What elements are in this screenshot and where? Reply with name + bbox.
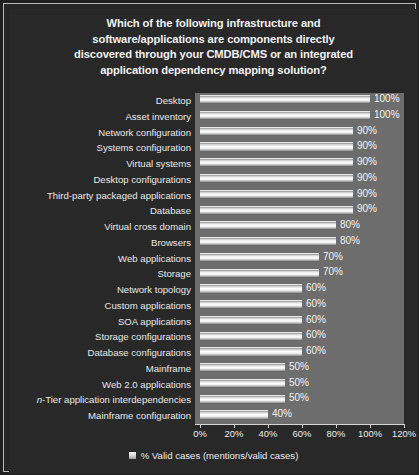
bar (200, 206, 353, 215)
bar (200, 332, 302, 341)
bar-value-label: 70% (323, 250, 343, 264)
bar-row: 90% (195, 140, 404, 156)
bar (200, 363, 285, 372)
bar-value-label: 40% (272, 407, 292, 421)
bar (200, 284, 302, 293)
bar-value-label: 70% (323, 265, 343, 279)
category-label: SOA applications (5, 314, 195, 330)
bar-row: 40% (195, 408, 404, 424)
bar-row: 90% (195, 188, 404, 204)
bar (200, 300, 302, 309)
chart-legend: % Valid cases (mentions/valid cases) (9, 450, 418, 461)
x-axis-tick-label: 40% (259, 428, 278, 439)
x-axis-tick-label: 60% (293, 428, 312, 439)
bar-row: 50% (195, 361, 404, 377)
category-label: Custom applications (5, 298, 195, 314)
bar-value-label: 100% (374, 108, 400, 122)
bar (200, 111, 370, 120)
category-label: Asset inventory (5, 109, 195, 125)
bar-row: 100% (195, 93, 404, 109)
bar-row: 60% (195, 298, 404, 314)
legend-label: % Valid cases (mentions/valid cases) (141, 450, 299, 461)
category-label: Third-party packaged applications (5, 188, 195, 204)
bar-value-label: 90% (357, 171, 377, 185)
category-label: Browsers (5, 235, 195, 251)
chart-title: Which of the following infrastructure an… (35, 16, 392, 78)
bar (200, 237, 336, 246)
x-axis-tick-label: 100% (358, 428, 382, 439)
x-axis-tick-label: 20% (225, 428, 244, 439)
bar-row: 60% (195, 282, 404, 298)
bar-row: 50% (195, 377, 404, 393)
bar-value-label: 90% (357, 202, 377, 216)
x-axis-tick-label: 120% (392, 428, 416, 439)
bar-value-label: 60% (306, 344, 326, 358)
category-label: Virtual cross domain (5, 219, 195, 235)
bar (200, 347, 302, 356)
bar-row: 80% (195, 219, 404, 235)
bar-value-label: 60% (306, 297, 326, 311)
bar-row: 70% (195, 251, 404, 267)
bar (200, 316, 302, 325)
bar-row: 60% (195, 314, 404, 330)
bar (200, 142, 353, 151)
legend-swatch-icon (129, 452, 136, 459)
bar-row: 90% (195, 156, 404, 172)
chart-title-line-4: application dependency mapping solution? (35, 63, 392, 79)
bar-value-label: 60% (306, 313, 326, 327)
bar-value-label: 50% (289, 360, 309, 374)
bar (200, 95, 370, 104)
bar-value-label: 90% (357, 187, 377, 201)
bar (200, 221, 336, 230)
bar (200, 269, 319, 278)
chart-title-line-3: discovered through your CMDB/CMS or an i… (35, 47, 392, 63)
bar-row: 80% (195, 235, 404, 251)
category-label: Mainframe (5, 361, 195, 377)
bar-value-label: 50% (289, 391, 309, 405)
bar-value-label: 90% (357, 124, 377, 138)
x-axis-tick-label: 0% (193, 428, 207, 439)
x-axis-line (195, 424, 404, 425)
category-label: Network configuration (5, 125, 195, 141)
bar-value-label: 80% (340, 218, 360, 232)
bar (200, 127, 353, 136)
bar-value-label: 60% (306, 281, 326, 295)
bar-row: 60% (195, 345, 404, 361)
bar-row: 90% (195, 203, 404, 219)
bar-row: 100% (195, 109, 404, 125)
category-label: Desktop configurations (5, 172, 195, 188)
bar-value-label: 80% (340, 234, 360, 248)
category-label: Web 2.0 applications (5, 377, 195, 393)
category-label: Database configurations (5, 345, 195, 361)
bar-row: 50% (195, 392, 404, 408)
bar (200, 158, 353, 167)
category-label: n-Tier application interdependencies (5, 392, 195, 408)
category-axis-labels: DesktopAsset inventoryNetwork configurat… (5, 93, 195, 424)
category-label: Database (5, 203, 195, 219)
bar (200, 410, 268, 419)
chart-area: Which of the following infrastructure an… (9, 9, 418, 474)
bar-row: 60% (195, 329, 404, 345)
bar-row: 70% (195, 266, 404, 282)
bar-row: 90% (195, 172, 404, 188)
category-label: Web applications (5, 251, 195, 267)
figure-frame: Which of the following infrastructure an… (3, 3, 416, 472)
bars-container: 100%100%90%90%90%90%90%90%80%80%70%70%60… (195, 93, 404, 424)
bar-value-label: 60% (306, 328, 326, 342)
plot-area: 100%100%90%90%90%90%90%90%80%80%70%70%60… (195, 93, 404, 424)
category-label: Desktop (5, 93, 195, 109)
category-label: Network topology (5, 282, 195, 298)
bar-value-label: 90% (357, 155, 377, 169)
chart-title-line-1: Which of the following infrastructure an… (35, 16, 392, 32)
bar-value-label: 90% (357, 139, 377, 153)
bar (200, 174, 353, 183)
category-label: Storage configurations (5, 329, 195, 345)
bar-value-label: 50% (289, 376, 309, 390)
bar (200, 379, 285, 388)
bar (200, 190, 353, 199)
bar (200, 395, 285, 404)
bar-row: 90% (195, 125, 404, 141)
chart-screenshot: Which of the following infrastructure an… (0, 0, 419, 475)
category-label: Virtual systems (5, 156, 195, 172)
category-label: Mainframe configuration (5, 408, 195, 424)
